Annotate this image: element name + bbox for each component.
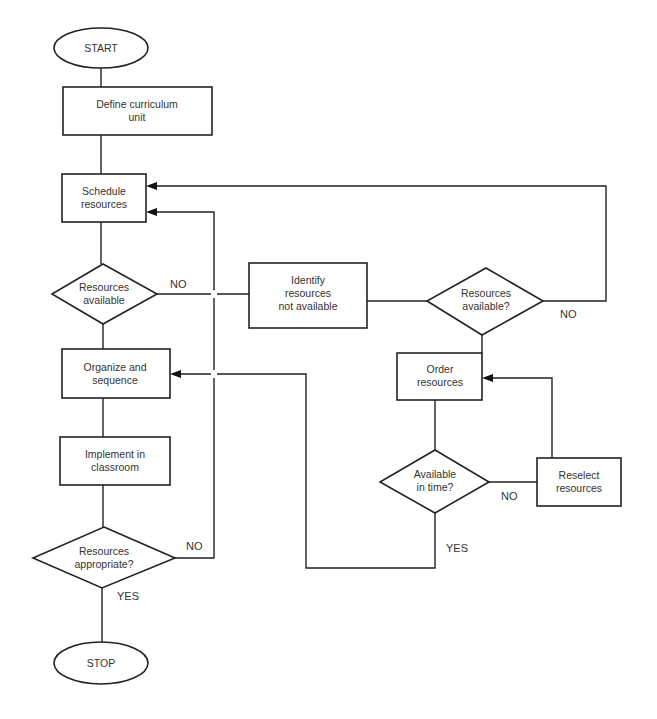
label-no-avail1: NO xyxy=(170,278,187,290)
arrowhead-organize xyxy=(170,370,181,378)
edge-intime-yes-organize xyxy=(178,374,435,568)
node-define-line: Define curriculum xyxy=(96,98,178,110)
node-start: START xyxy=(54,28,148,68)
arrowhead-schedule-bottom xyxy=(146,208,157,216)
edge-avail2-no-schedule xyxy=(154,186,606,301)
node-reselect-label: Reselectresources xyxy=(556,469,602,494)
flowchart: START Define curriculumunit Schedulereso… xyxy=(0,0,657,719)
node-avail1-line: Resources xyxy=(79,281,129,293)
node-schedule-label: Scheduleresources xyxy=(81,185,127,210)
node-organize-label: Organize andsequence xyxy=(83,361,146,386)
node-stop: STOP xyxy=(54,642,148,684)
node-avail2-label: Resourcesavailable? xyxy=(461,287,511,312)
node-appropriate-line: Resources xyxy=(79,545,129,557)
node-identify-line: resources xyxy=(285,287,331,299)
node-organize-line: Organize and xyxy=(83,361,146,373)
node-intime: Availablein time? xyxy=(380,450,489,513)
node-start-label: START xyxy=(84,42,118,54)
node-avail2: Resourcesavailable? xyxy=(427,268,543,335)
node-define-line: unit xyxy=(129,111,146,123)
node-stop-label: STOP xyxy=(87,657,115,669)
node-schedule: Scheduleresources xyxy=(62,174,146,222)
node-intime-line: Available xyxy=(414,468,457,480)
node-avail2-line: Resources xyxy=(461,287,511,299)
node-schedule-line: resources xyxy=(81,198,127,210)
node-order-line: resources xyxy=(417,376,463,388)
node-implement: Implement inclassroom xyxy=(60,437,170,485)
node-order: Orderresources xyxy=(397,353,482,400)
label-yes-appropriate: YES xyxy=(117,590,139,602)
node-define: Define curriculumunit xyxy=(63,87,212,135)
node-appropriate-label: Resourcesappropriate? xyxy=(75,545,134,570)
node-avail1-label: Resourcesavailable xyxy=(79,281,129,306)
node-reselect-line: Reselect xyxy=(559,469,600,481)
arrowhead-order xyxy=(482,374,493,382)
node-avail2-line: available? xyxy=(462,300,509,312)
node-implement-label: Implement inclassroom xyxy=(85,448,145,473)
node-appropriate: Resourcesappropriate? xyxy=(33,527,175,588)
arrowhead-schedule-top xyxy=(146,182,157,190)
node-implement-line: classroom xyxy=(91,461,139,473)
edge-reselect-order xyxy=(490,378,552,458)
node-identify: Identifyresourcesnot available xyxy=(249,263,367,328)
node-avail1-line: available xyxy=(83,294,125,306)
node-implement-line: Implement in xyxy=(85,448,145,460)
node-schedule-line: Schedule xyxy=(82,185,126,197)
label-no-intime: NO xyxy=(501,490,518,502)
node-order-line: Order xyxy=(427,363,454,375)
label-no-appropriate: NO xyxy=(186,540,203,552)
node-stop-line: STOP xyxy=(87,657,115,669)
label-yes-intime: YES xyxy=(446,542,468,554)
node-organize-line: sequence xyxy=(92,374,138,386)
node-appropriate-line: appropriate? xyxy=(75,558,134,570)
node-identify-line: Identify xyxy=(291,274,326,286)
node-reselect: Reselectresources xyxy=(537,458,621,506)
node-intime-line: in time? xyxy=(417,481,454,493)
node-start-line: START xyxy=(84,42,118,54)
node-organize: Organize andsequence xyxy=(62,349,170,398)
node-intime-label: Availablein time? xyxy=(414,468,457,493)
node-identify-line: not available xyxy=(279,300,338,312)
node-reselect-line: resources xyxy=(556,482,602,494)
node-avail1: Resourcesavailable xyxy=(52,264,157,324)
label-no-avail2: NO xyxy=(560,308,577,320)
